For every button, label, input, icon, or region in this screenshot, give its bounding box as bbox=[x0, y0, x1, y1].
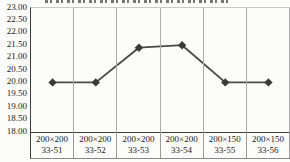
vertical-gridline bbox=[160, 8, 161, 132]
y-tick-label: 18.00 bbox=[0, 126, 27, 137]
y-tick-label: 22.00 bbox=[0, 26, 27, 37]
vertical-gridline bbox=[73, 8, 74, 132]
x-category-cell: 200×20033-53 bbox=[117, 132, 160, 158]
x-category-cell: 200×15033-55 bbox=[204, 132, 247, 158]
y-tick-label: 19.00 bbox=[0, 101, 27, 112]
category-size-label: 200×200 bbox=[36, 134, 68, 145]
category-size-label: 200×150 bbox=[252, 134, 284, 145]
clipped-chart-title bbox=[45, 0, 231, 3]
y-tick-label: 18.50 bbox=[0, 113, 27, 124]
y-axis: 23.0022.5022.0021.5021.0020.5020.0019.50… bbox=[0, 0, 28, 140]
x-category-cell: 200×15033-56 bbox=[247, 132, 290, 158]
y-tick-label: 20.00 bbox=[0, 76, 27, 87]
plot-area bbox=[30, 7, 290, 133]
x-category-cell: 200×20033-52 bbox=[74, 132, 117, 158]
category-size-label: 200×200 bbox=[166, 134, 198, 145]
line-chart: 23.0022.5022.0021.5021.0020.5020.0019.50… bbox=[0, 0, 290, 162]
diamond-marker bbox=[48, 78, 56, 86]
y-tick-label: 22.50 bbox=[0, 14, 27, 25]
category-size-label: 200×150 bbox=[209, 134, 241, 145]
category-size-label: 200×200 bbox=[79, 134, 111, 145]
x-category-cell: 200×20033-51 bbox=[31, 132, 74, 158]
x-axis-category-labels: 200×20033-51200×20033-52200×20033-53200×… bbox=[30, 132, 290, 159]
vertical-gridline bbox=[246, 8, 247, 132]
y-tick-label: 21.00 bbox=[0, 51, 27, 62]
category-id-label: 33-56 bbox=[257, 145, 278, 156]
diamond-marker bbox=[264, 78, 272, 86]
category-id-label: 33-53 bbox=[128, 145, 149, 156]
category-id-label: 33-54 bbox=[171, 145, 192, 156]
vertical-gridline bbox=[203, 8, 204, 132]
vertical-gridline bbox=[289, 8, 290, 132]
x-category-cell: 200×20033-54 bbox=[161, 132, 204, 158]
category-id-label: 33-52 bbox=[85, 145, 106, 156]
y-tick-label: 23.00 bbox=[0, 2, 27, 13]
category-size-label: 200×200 bbox=[122, 134, 154, 145]
category-id-label: 33-55 bbox=[214, 145, 235, 156]
category-id-label: 33-51 bbox=[42, 145, 63, 156]
y-tick-label: 21.50 bbox=[0, 39, 27, 50]
y-tick-label: 19.50 bbox=[0, 88, 27, 99]
vertical-gridline bbox=[116, 8, 117, 132]
y-tick-label: 20.50 bbox=[0, 64, 27, 75]
